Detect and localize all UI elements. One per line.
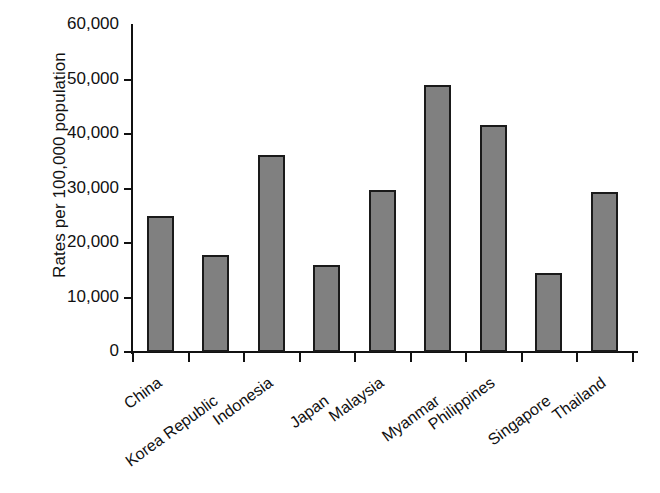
bar-malaysia <box>369 190 396 352</box>
x-tick-mark <box>188 353 190 362</box>
y-tick-label: 10,000 <box>67 287 119 307</box>
bar-indonesia <box>258 155 285 352</box>
x-tick-mark <box>132 353 134 362</box>
y-tick-mark <box>124 188 133 190</box>
y-tick-label: 30,000 <box>67 178 119 198</box>
x-tick-mark <box>410 353 412 362</box>
y-tick-mark <box>124 242 133 244</box>
plot-area <box>133 25 636 352</box>
y-tick-mark <box>124 79 133 81</box>
bar-philippines <box>480 125 507 352</box>
y-tick-label: 60,000 <box>67 14 119 34</box>
y-tick-mark <box>124 133 133 135</box>
bar-chart: Rates per 100,000 population 010,00020,0… <box>0 0 660 493</box>
x-tick-mark <box>243 353 245 362</box>
bar-singapore <box>535 273 562 352</box>
y-axis-title: Rates per 100,000 population <box>50 0 70 335</box>
y-tick-mark <box>124 297 133 299</box>
x-tick-mark <box>354 353 356 362</box>
x-tick-mark <box>576 353 578 362</box>
x-tick-mark <box>632 353 634 362</box>
bar-myanmar <box>424 85 451 352</box>
bar-korea-republic <box>202 255 229 352</box>
bar-japan <box>313 265 340 352</box>
y-tick-label: 50,000 <box>67 69 119 89</box>
x-tick-mark <box>299 353 301 362</box>
bar-thailand <box>591 192 618 352</box>
y-tick-label: 20,000 <box>67 232 119 252</box>
x-tick-mark <box>521 353 523 362</box>
x-tick-mark <box>465 353 467 362</box>
y-tick-label: 0 <box>110 341 119 361</box>
y-tick-label: 40,000 <box>67 123 119 143</box>
bar-china <box>147 216 174 352</box>
